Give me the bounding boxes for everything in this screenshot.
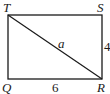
vertex-label-q: Q [2, 80, 12, 94]
diagonal-tr [8, 15, 102, 79]
rectangle-diagram: T S Q R a 4 6 [0, 0, 110, 94]
diagonal-label-a: a [58, 36, 65, 51]
vertex-label-t: T [3, 0, 11, 15]
side-label-qr: 6 [52, 80, 59, 94]
side-label-sr: 4 [104, 39, 110, 54]
vertex-label-r: R [96, 80, 105, 94]
vertex-label-s: S [97, 0, 104, 15]
